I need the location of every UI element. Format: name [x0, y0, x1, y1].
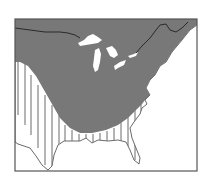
range-map [0, 0, 207, 187]
